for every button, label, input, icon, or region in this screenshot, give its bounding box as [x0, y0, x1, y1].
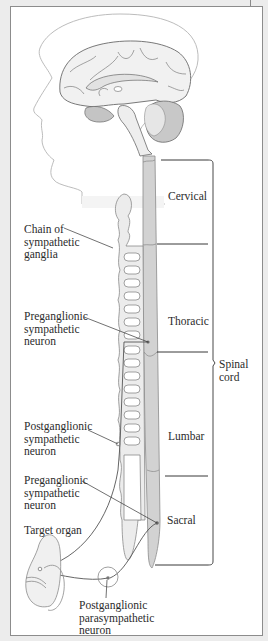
- brainstem: [85, 106, 114, 122]
- label-lumbar: Lumbar: [168, 430, 204, 443]
- label-postganglionic-parasympathetic-neuron: Postganglionic parasympathetic neuron: [79, 599, 154, 637]
- label-preganglionic-sympathetic-neuron-1: Preganglionic sympathetic neuron: [24, 310, 88, 348]
- ganglia-segments: [124, 253, 141, 520]
- spinal-cord: [143, 156, 160, 568]
- target-organ: [26, 535, 64, 611]
- label-sacral: Sacral: [167, 514, 196, 527]
- label-target-organ: Target organ: [24, 524, 82, 537]
- label-thoracic: Thoracic: [168, 315, 209, 328]
- label-cervical: Cervical: [168, 190, 207, 203]
- label-spinal-cord: Spinal cord: [219, 358, 248, 383]
- brain-cerebrum: [60, 41, 191, 107]
- label-preganglionic-sympathetic-neuron-2: Preganglionic sympathetic neuron: [24, 474, 88, 512]
- label-chain-of-sympathetic-ganglia: Chain of sympathetic ganglia: [24, 223, 80, 261]
- label-postganglionic-sympathetic-neuron: Postganglionic sympathetic neuron: [24, 420, 92, 458]
- spinal-cord-bracket: [208, 160, 215, 565]
